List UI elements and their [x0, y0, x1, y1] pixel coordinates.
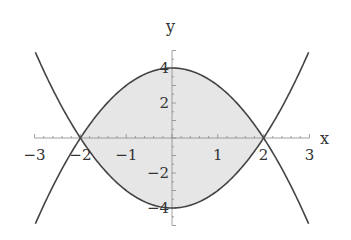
x-tick-label: −1 — [115, 146, 137, 164]
x-tick-label: 3 — [305, 146, 315, 164]
y-tick-label: −4 — [147, 199, 169, 217]
x-tick-label: 2 — [259, 146, 269, 164]
x-tick-label: −3 — [24, 146, 46, 164]
axes — [35, 51, 310, 226]
y-tick-label: −2 — [147, 164, 169, 182]
y-tick-label: 4 — [159, 59, 169, 77]
y-tick-label: 2 — [159, 94, 169, 112]
x-tick-label: 1 — [213, 146, 223, 164]
chart: −3−2−112342−2−4 x y — [0, 0, 351, 240]
x-tick-label: −2 — [69, 146, 91, 164]
x-axis-label: x — [320, 129, 329, 148]
y-axis-label: y — [165, 17, 175, 36]
